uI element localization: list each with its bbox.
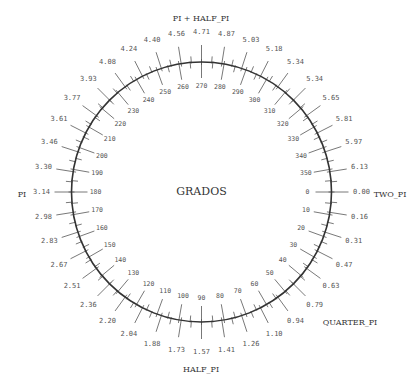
degree-label: 160	[96, 224, 108, 232]
radian-label: 2.20	[99, 317, 116, 325]
radian-label: 2.67	[51, 261, 68, 269]
degree-label: 350	[300, 169, 312, 177]
degree-label: 290	[232, 88, 244, 96]
degree-label: 90	[198, 294, 206, 302]
radian-label: 4.71	[193, 28, 210, 36]
degree-label: 110	[159, 287, 171, 295]
radian-label: 5.34	[306, 75, 323, 83]
radian-label: 1.88	[144, 340, 161, 348]
degree-label: 310	[264, 107, 276, 115]
radian-label: 0.47	[336, 261, 353, 269]
radian-label: 4.24	[120, 45, 137, 53]
radian-label: 1.26	[243, 340, 260, 348]
radian-label: 3.14	[33, 188, 50, 196]
radian-label: 6.13	[351, 163, 368, 171]
radian-label: 5.18	[266, 45, 283, 53]
degree-label: 230	[127, 107, 139, 115]
degree-label: 130	[127, 269, 139, 277]
degree-label: 240	[143, 96, 155, 104]
radian-label: 2.36	[80, 301, 97, 309]
degree-label: 140	[114, 256, 126, 264]
radian-label: 4.40	[144, 36, 161, 44]
degree-label: 120	[143, 280, 155, 288]
radian-label: 5.65	[323, 94, 340, 102]
degree-label: 330	[287, 135, 299, 143]
degree-label: 300	[249, 96, 261, 104]
radian-label: 1.73	[168, 346, 185, 354]
degree-label: 80	[216, 292, 224, 300]
degree-label: 10	[302, 206, 310, 214]
radian-label: 0.00	[353, 188, 370, 196]
degree-label: 280	[214, 83, 226, 91]
radian-label: 3.77	[64, 94, 81, 102]
degree-label: 190	[91, 169, 103, 177]
degree-label: 250	[159, 88, 171, 96]
degree-label: 20	[297, 224, 305, 232]
degree-label: 340	[295, 152, 307, 160]
radian-label: 4.56	[168, 30, 185, 38]
radian-label: 3.46	[41, 138, 58, 146]
radian-label: 3.30	[35, 163, 52, 171]
degree-label: 0	[306, 188, 310, 196]
degree-label: 210	[104, 135, 116, 143]
radian-label: 0.31	[345, 237, 362, 245]
degree-label: 260	[177, 83, 189, 91]
radian-label: 3.93	[80, 75, 97, 83]
degree-label: 220	[114, 120, 126, 128]
degree-label: 40	[279, 256, 287, 264]
radian-label: 0.63	[323, 282, 340, 290]
named-angle-label: PI	[18, 190, 27, 199]
radian-label: 4.08	[99, 58, 116, 66]
radian-label: 2.98	[35, 213, 52, 221]
degree-label: 270	[196, 82, 208, 90]
radian-label: 2.83	[41, 237, 58, 245]
radian-label: 0.79	[306, 301, 323, 309]
degree-label: 60	[251, 280, 259, 288]
radian-label: 1.57	[193, 348, 210, 356]
radian-label: 2.51	[64, 282, 81, 290]
named-angle-label: PI + HALF_PI	[173, 14, 230, 23]
degree-label: 180	[90, 188, 102, 196]
named-angle-label: HALF_PI	[183, 365, 219, 374]
degree-label: 50	[266, 269, 274, 277]
degree-label: 320	[277, 120, 289, 128]
center-title: GRADOS	[176, 185, 226, 198]
degree-label: 70	[234, 287, 242, 295]
angle-circle-diagram: 0102030405060708090100110120130140150160…	[0, 0, 419, 386]
diagram-canvas: 0102030405060708090100110120130140150160…	[0, 0, 419, 386]
radian-label: 4.87	[218, 30, 235, 38]
radian-label: 1.10	[266, 330, 283, 338]
radian-label: 0.16	[351, 213, 368, 221]
radian-label: 2.04	[120, 330, 137, 338]
degree-label: 170	[91, 206, 103, 214]
named-angle-label: QUARTER_PI	[323, 318, 377, 327]
named-angle-label: TWO_PI	[374, 190, 407, 199]
radian-label: 5.03	[243, 36, 260, 44]
radian-label: 5.97	[345, 138, 362, 146]
degree-label: 150	[104, 241, 116, 249]
radian-label: 5.34	[287, 58, 304, 66]
degree-label: 30	[289, 241, 297, 249]
degree-label: 200	[96, 152, 108, 160]
degree-label: 100	[177, 292, 189, 300]
radian-label: 3.61	[51, 115, 68, 123]
radian-label: 5.81	[336, 115, 353, 123]
radian-label: 0.94	[287, 317, 304, 325]
radian-label: 1.41	[218, 346, 235, 354]
